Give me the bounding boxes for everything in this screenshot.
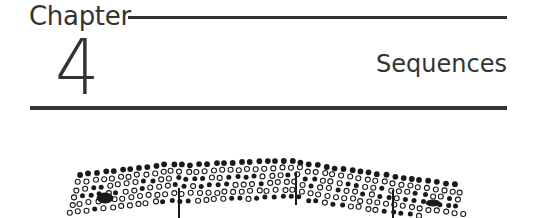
chapter-number: 4: [55, 30, 99, 106]
chapter-title: Sequences: [376, 50, 507, 78]
bottom-rule: [30, 106, 507, 110]
top-rule: [128, 16, 507, 19]
dot-pattern-figure: [0, 150, 541, 218]
